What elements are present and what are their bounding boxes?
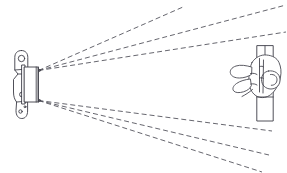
diagram-canvas bbox=[0, 0, 287, 173]
bracket-hole-bottom bbox=[19, 110, 22, 113]
bracket-hole-top bbox=[18, 55, 24, 61]
finger-edge-right bbox=[263, 60, 264, 93]
sensor-detection-diagram bbox=[0, 0, 287, 173]
bracket-rivet-2 bbox=[24, 106, 26, 108]
hand-thumb bbox=[230, 65, 251, 78]
